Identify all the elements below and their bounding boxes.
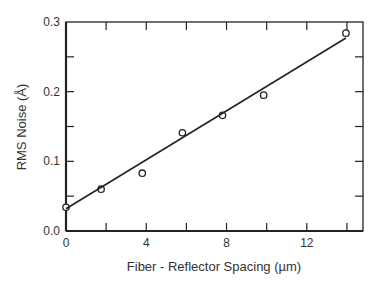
- y-axis-label: RMS Noise (Å): [14, 84, 29, 171]
- data-point: [139, 170, 145, 176]
- data-series: [63, 30, 349, 211]
- x-tick-label: 12: [300, 236, 314, 250]
- data-point: [179, 130, 185, 136]
- x-tick-label: 4: [143, 236, 150, 250]
- data-point: [260, 92, 266, 98]
- x-tick-label: 8: [223, 236, 230, 250]
- y-tick-label: 0.1: [43, 154, 60, 168]
- y-tick-label: 0.0: [43, 224, 60, 238]
- plot-frame: [66, 22, 363, 231]
- chart: 048120.00.10.20.3 Fiber - Reflector Spac…: [0, 0, 382, 285]
- axis-ticks: [66, 22, 363, 231]
- x-tick-label: 0: [63, 236, 70, 250]
- x-axis-label: Fiber - Reflector Spacing (µm): [127, 259, 301, 274]
- plot-border: [66, 22, 363, 231]
- data-point: [343, 30, 349, 36]
- fit-line: [66, 38, 346, 209]
- y-tick-label: 0.2: [43, 85, 60, 99]
- y-tick-label: 0.3: [43, 15, 60, 29]
